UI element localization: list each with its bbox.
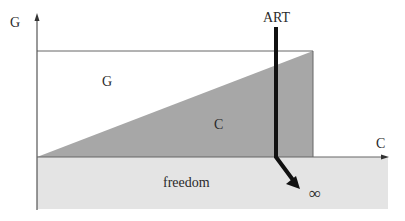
freedom-region-label: freedom (163, 176, 210, 190)
art-label: ART (263, 11, 290, 25)
infinity-label: ∞ (309, 185, 321, 202)
upper-region-label: G (102, 75, 112, 89)
freedom-band (37, 157, 388, 209)
c-triangle (37, 51, 313, 157)
x-axis-label: C (376, 137, 385, 151)
y-axis-label: G (10, 16, 20, 30)
triangle-region-label: C (214, 118, 223, 132)
y-axis-arrowhead-icon (35, 13, 40, 21)
